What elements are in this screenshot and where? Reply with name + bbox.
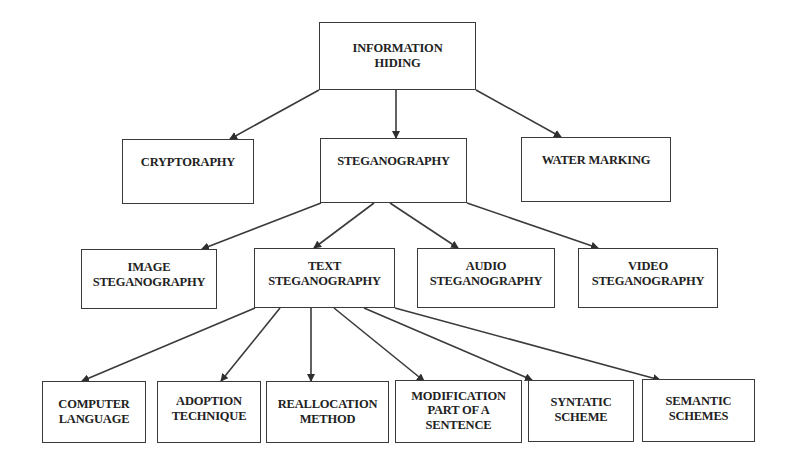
node-reallocation-method: REALLOCATION METHOD (266, 381, 389, 443)
edge-steganography-video (467, 203, 598, 248)
node-label-line: LANGUAGE (59, 412, 130, 427)
edge-steganography-image (202, 203, 321, 249)
node-label-line: VIDEO (628, 259, 668, 274)
node-information-hiding: INFORMATION HIDING (319, 22, 476, 90)
edge-steganography-audio (390, 203, 458, 248)
node-label-line: TEXT (308, 259, 341, 274)
node-cryptography: CRYPTORAPHY (122, 139, 254, 204)
node-label-line: STEGANOGRAPHY (268, 274, 381, 289)
node-label-line: AUDIO (466, 259, 507, 274)
edge-steganography-text (314, 203, 374, 248)
node-modification-part-of-a-sentence: MODIFICATION PART OF A SENTENCE (395, 380, 522, 443)
node-syntatic-scheme: SYNTATIC SCHEME (528, 380, 634, 442)
node-label-line: SCHEMES (669, 409, 729, 424)
node-label-line: SCHEME (555, 410, 608, 425)
node-label-line: IMAGE (128, 260, 171, 275)
node-label-line: REALLOCATION (278, 397, 377, 412)
node-semantic-schemes: SEMANTIC SCHEMES (642, 379, 755, 442)
node-label-line: WATER MARKING (542, 153, 651, 168)
node-label-line: SENTENCE (426, 418, 492, 433)
node-label-line: PART OF A (427, 403, 489, 418)
edge-information-hiding-cryptography (230, 90, 319, 139)
node-label-line: COMPUTER (58, 397, 129, 412)
node-label-line: HIDING (374, 56, 420, 71)
node-text-steganography: TEXT STEGANOGRAPHY (254, 248, 395, 308)
node-computer-language: COMPUTER LANGUAGE (42, 381, 146, 443)
node-label-line: SEMANTIC (666, 394, 732, 409)
information-hiding-diagram: INFORMATION HIDING CRYPTORAPHY STEGANOGR… (0, 0, 795, 472)
edge-text-modification (334, 308, 424, 381)
node-label-line: STEGANOGRAPHY (337, 154, 450, 169)
node-label-line: CRYPTORAPHY (141, 155, 235, 170)
node-label-line: MODIFICATION (411, 389, 506, 404)
node-label-line: METHOD (300, 412, 356, 427)
node-image-steganography: IMAGE STEGANOGRAPHY (81, 249, 217, 309)
node-water-marking: WATER MARKING (521, 137, 671, 202)
node-steganography: STEGANOGRAPHY (320, 138, 467, 203)
node-label-line: TECHNIQUE (172, 409, 247, 424)
edge-text-semantic-schemes (395, 308, 660, 380)
node-adoption-technique: ADOPTION TECHNIQUE (157, 381, 261, 443)
node-label-line: STEGANOGRAPHY (430, 274, 543, 289)
node-label-line: STEGANOGRAPHY (93, 275, 206, 290)
node-label-line: STEGANOGRAPHY (592, 274, 705, 289)
edge-information-hiding-water-marking (476, 90, 561, 137)
node-audio-steganography: AUDIO STEGANOGRAPHY (417, 248, 555, 308)
node-video-steganography: VIDEO STEGANOGRAPHY (578, 248, 718, 308)
node-label-line: INFORMATION (353, 41, 443, 56)
node-label-line: ADOPTION (176, 394, 242, 409)
edge-text-syntatic-scheme (364, 308, 532, 380)
node-label-line: SYNTATIC (550, 395, 611, 410)
